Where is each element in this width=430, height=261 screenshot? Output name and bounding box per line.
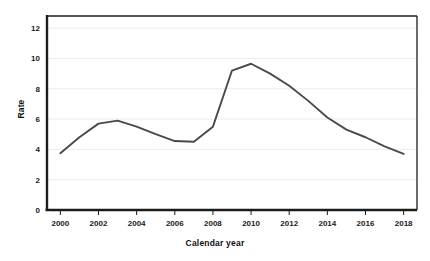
x-tick-label: 2000 [51, 219, 69, 228]
chart-figure: Rate 024681012 2000200220042006200820102… [0, 0, 430, 261]
ytick-labels-layer: 024681012 [31, 24, 40, 215]
y-tick-label: 4 [36, 145, 41, 154]
x-tick-label: 2008 [204, 219, 222, 228]
x-axis-title: Calendar year [0, 238, 430, 248]
y-tick-label: 8 [36, 85, 41, 94]
y-tick-label: 12 [31, 24, 40, 33]
line-chart-plot: 024681012 200020022004200620082010201220… [0, 0, 430, 261]
x-tick-label: 2006 [166, 219, 184, 228]
x-tick-label: 2018 [395, 219, 413, 228]
data-series-layer [60, 64, 403, 154]
x-tick-label: 2016 [357, 219, 375, 228]
y-tick-label: 2 [36, 176, 41, 185]
y-tick-label: 0 [36, 206, 41, 215]
x-tick-label: 2010 [242, 219, 260, 228]
xtick-labels-layer: 2000200220042006200820102012201420162018 [51, 219, 413, 228]
gridlines-layer [47, 28, 417, 180]
x-tick-label: 2004 [128, 219, 146, 228]
x-tick-label: 2012 [280, 219, 298, 228]
axes-layer [46, 15, 418, 215]
y-tick-label: 10 [31, 54, 40, 63]
y-tick-label: 6 [36, 115, 41, 124]
x-tick-label: 2002 [90, 219, 108, 228]
x-tick-label: 2014 [318, 219, 336, 228]
data-line-rate [60, 64, 403, 154]
